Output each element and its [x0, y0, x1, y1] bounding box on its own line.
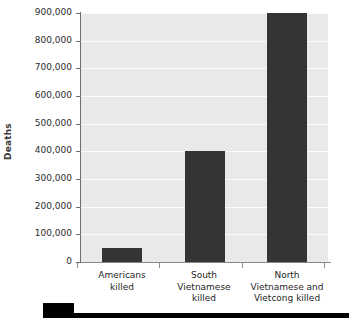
y-axis-tick-mark [76, 13, 81, 14]
x-axis-category-label: South Vietnamese killed [163, 270, 245, 305]
footer-rule [43, 313, 349, 318]
x-axis-line [77, 262, 331, 263]
y-axis-tick-mark [76, 207, 81, 208]
y-axis-tick-label: 200,000 [35, 201, 72, 211]
x-axis-tick-mark [159, 263, 160, 268]
y-axis-tick-label: 700,000 [35, 62, 72, 72]
plot-area [81, 13, 328, 262]
x-axis-tick-mark [324, 263, 325, 268]
y-axis-line [80, 12, 81, 263]
y-axis-tick-mark [76, 41, 81, 42]
y-axis-tick-mark [76, 151, 81, 152]
bar-chart-figure: Deaths 0100,000200,000300,000400,000500,… [0, 0, 349, 321]
y-axis-tick-label: 900,000 [35, 7, 72, 17]
x-axis-tick-mark [242, 263, 243, 268]
x-axis-category-label: Americans killed [81, 270, 163, 293]
y-axis-tick-label: 500,000 [35, 118, 72, 128]
bars-group [81, 13, 328, 262]
y-axis-title: Deaths [3, 112, 17, 172]
y-axis-tick-label: 400,000 [35, 145, 72, 155]
x-axis-category-label: North Vietnamese and Vietcong killed [246, 270, 328, 305]
bar [267, 13, 307, 262]
y-axis-tick-mark [76, 96, 81, 97]
y-axis-tick-label: 800,000 [35, 35, 72, 45]
bar [102, 248, 142, 262]
y-axis-tick-mark [76, 68, 81, 69]
y-axis-tick-label: 100,000 [35, 228, 72, 238]
y-axis-tick-mark [76, 234, 81, 235]
y-axis-tick-label: 600,000 [35, 90, 72, 100]
y-axis-tick-mark [76, 124, 81, 125]
y-axis-tick-label: 300,000 [35, 173, 72, 183]
bar [185, 151, 225, 262]
x-axis-tick-mark [77, 263, 78, 268]
y-axis-tick-mark [76, 179, 81, 180]
y-axis-tick-label: 0 [66, 256, 72, 266]
